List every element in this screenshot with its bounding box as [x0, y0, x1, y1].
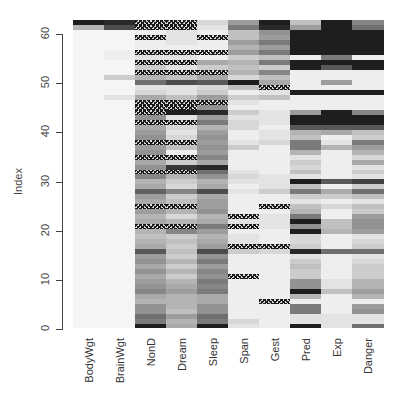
- heatmap-cell: [197, 139, 229, 144]
- heatmap-cell: [290, 283, 322, 288]
- heatmap-cell: [321, 104, 353, 109]
- heatmap-cell: [73, 60, 105, 65]
- missing-cell: [135, 109, 167, 114]
- heatmap-cell: [104, 239, 136, 244]
- heatmap-cell: [73, 139, 105, 144]
- heatmap-cell: [321, 258, 353, 263]
- heatmap-cell: [135, 258, 167, 263]
- heatmap-cell: [228, 194, 260, 199]
- heatmap-cell: [259, 249, 291, 254]
- heatmap-cell: [352, 40, 384, 45]
- heatmap-cell: [259, 258, 291, 263]
- heatmap-cell: [321, 179, 353, 184]
- heatmap-cell: [321, 124, 353, 129]
- missing-cell: [166, 204, 198, 209]
- heatmap-cell: [104, 268, 136, 273]
- heatmap-cell: [352, 234, 384, 239]
- y-tick: [56, 83, 62, 84]
- heatmap-cell: [73, 55, 105, 60]
- heatmap-cell: [352, 249, 384, 254]
- heatmap-cell: [321, 224, 353, 229]
- heatmap-cell: [166, 258, 198, 263]
- heatmap-cell: [290, 258, 322, 263]
- heatmap-cell: [228, 209, 260, 214]
- heatmap-cell: [73, 119, 105, 124]
- heatmap-cell: [352, 283, 384, 288]
- heatmap-cell: [104, 50, 136, 55]
- heatmap-cell: [73, 70, 105, 75]
- heatmap-cell: [290, 244, 322, 249]
- heatmap-cell: [290, 164, 322, 169]
- heatmap-cell: [135, 189, 167, 194]
- heatmap-cell: [104, 323, 136, 328]
- heatmap-cell: [197, 45, 229, 50]
- heatmap-cell: [259, 30, 291, 35]
- heatmap-cell: [135, 288, 167, 293]
- heatmap-cell: [228, 129, 260, 134]
- heatmap-cell: [259, 234, 291, 239]
- heatmap-cell: [166, 249, 198, 254]
- heatmap-cell: [321, 209, 353, 214]
- heatmap-cell: [228, 278, 260, 283]
- heatmap-cell: [228, 199, 260, 204]
- heatmap-cell: [228, 318, 260, 323]
- heatmap-cell: [321, 25, 353, 30]
- heatmap-cell: [73, 239, 105, 244]
- heatmap-cell: [166, 194, 198, 199]
- heatmap-cell: [259, 139, 291, 144]
- heatmap-cell: [104, 244, 136, 249]
- heatmap-cell: [352, 104, 384, 109]
- missing-cell: [135, 224, 167, 229]
- heatmap-cell: [352, 184, 384, 189]
- heatmap-cell: [290, 268, 322, 273]
- heatmap-cell: [352, 75, 384, 80]
- heatmap-cell: [73, 109, 105, 114]
- heatmap-cell: [259, 323, 291, 328]
- heatmap-cell: [321, 95, 353, 100]
- heatmap-cell: [197, 164, 229, 169]
- heatmap-cell: [228, 219, 260, 224]
- heatmap-cell: [321, 90, 353, 95]
- heatmap-cell: [228, 45, 260, 50]
- heatmap-cell: [352, 139, 384, 144]
- heatmap-cell: [166, 313, 198, 318]
- column-label-sleep: Sleep: [207, 338, 219, 398]
- heatmap-cell: [259, 70, 291, 75]
- heatmap-cell: [73, 179, 105, 184]
- heatmap-cell: [228, 85, 260, 90]
- heatmap-cell: [259, 179, 291, 184]
- heatmap-cell: [197, 65, 229, 70]
- missing-cell: [166, 70, 198, 75]
- heatmap-cell: [73, 149, 105, 154]
- heatmap-cell: [228, 40, 260, 45]
- heatmap-cell: [166, 298, 198, 303]
- heatmap-cell: [228, 323, 260, 328]
- heatmap-cell: [228, 80, 260, 85]
- heatmap-cell: [352, 268, 384, 273]
- heatmap-cell: [197, 229, 229, 234]
- heatmap-cell: [166, 134, 198, 139]
- heatmap-cell: [73, 209, 105, 214]
- heatmap-cell: [352, 45, 384, 50]
- heatmap-cell: [197, 303, 229, 308]
- missing-cell: [135, 60, 167, 65]
- heatmap-cell: [290, 224, 322, 229]
- heatmap-cell: [197, 239, 229, 244]
- missing-cell: [166, 224, 198, 229]
- heatmap-cell: [259, 318, 291, 323]
- heatmap-cell: [197, 179, 229, 184]
- heatmap-cell: [135, 124, 167, 129]
- heatmap-cell: [104, 174, 136, 179]
- heatmap-cell: [259, 293, 291, 298]
- heatmap-cell: [352, 239, 384, 244]
- heatmap-cell: [73, 104, 105, 109]
- heatmap-cell: [321, 298, 353, 303]
- heatmap-cell: [290, 134, 322, 139]
- heatmap-cell: [290, 179, 322, 184]
- missing-cell: [259, 85, 291, 90]
- heatmap-cell: [259, 184, 291, 189]
- heatmap-cell: [104, 209, 136, 214]
- heatmap-cell: [135, 65, 167, 70]
- heatmap-cell: [197, 258, 229, 263]
- heatmap-cell: [73, 199, 105, 204]
